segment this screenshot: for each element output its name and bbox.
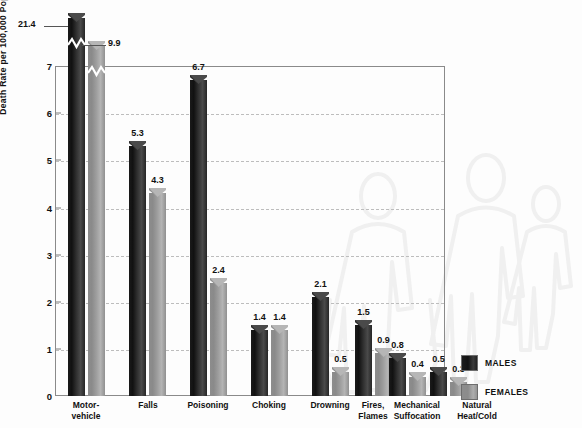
legend-swatch-females-icon: [461, 384, 478, 400]
legend-item-males[interactable]: MALES: [461, 355, 528, 371]
plot-area: [55, 66, 445, 396]
y-axis-ticks: 7 6 5 4 3 2 1 0: [0, 0, 52, 428]
y-tick-label-7: 7: [28, 61, 52, 72]
legend-label-males: MALES: [485, 358, 517, 368]
gridline-6: [56, 114, 444, 115]
gridline-4: [56, 209, 444, 210]
chart-container: Death Rate per 100,000 Population 7 6 5 …: [0, 0, 582, 428]
y-tick-label-3: 3: [28, 250, 52, 261]
gridline-5: [56, 161, 444, 162]
y-tick-label-4: 4: [28, 203, 52, 214]
callout-leader-line-males: [44, 26, 68, 27]
gridline-1: [56, 350, 444, 351]
legend-item-females[interactable]: FEMALES: [461, 384, 528, 400]
y-tick-label-1: 1: [28, 344, 52, 355]
y-tick-label-6: 6: [28, 108, 52, 119]
y-tick-label-2: 2: [28, 297, 52, 308]
axis-break-zigzag-icon: [68, 36, 85, 50]
gridline-3: [56, 256, 444, 257]
legend-label-females: FEMALES: [485, 387, 528, 397]
callout-label-motor-vehicle-males: 21.4: [18, 19, 36, 29]
callout-label-motor-vehicle-females: 9.9: [108, 38, 121, 48]
gridline-2: [56, 303, 444, 304]
legend: MALES FEMALES: [461, 355, 528, 413]
bar-cap-icon: [68, 13, 85, 22]
callout-leader-line-females: [82, 45, 106, 46]
y-tick-label-5: 5: [28, 155, 52, 166]
legend-swatch-males-icon: [461, 355, 478, 371]
